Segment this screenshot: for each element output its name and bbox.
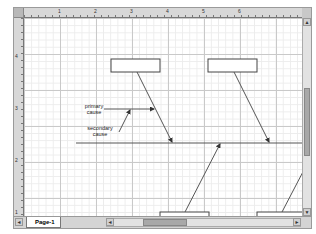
horizontal-ruler[interactable]: 1 2 3 4 5 6 bbox=[24, 8, 302, 18]
primary-cause-label[interactable]: primary cause bbox=[81, 103, 107, 115]
ruler-label: 3 bbox=[15, 106, 18, 111]
secondary-cause-arrow bbox=[119, 110, 130, 132]
primary-bone-top-right bbox=[234, 72, 269, 142]
primary-bone-top-left bbox=[137, 72, 172, 142]
vertical-ruler[interactable]: 4 3 2 1 bbox=[14, 18, 24, 216]
vertical-scrollbar[interactable]: ▲ ▼ bbox=[302, 18, 311, 216]
secondary-cause-line2: cause bbox=[84, 131, 116, 137]
ruler-corner[interactable] bbox=[14, 8, 24, 18]
ruler-label: 5 bbox=[202, 9, 205, 14]
page-nav-first-button[interactable]: ◄ bbox=[15, 218, 23, 226]
horizontal-scroll-thumb[interactable] bbox=[143, 219, 187, 226]
ruler-label: 2 bbox=[15, 158, 18, 163]
ruler-label: 2 bbox=[94, 9, 97, 14]
page-tab-page-1[interactable]: Page-1 bbox=[26, 217, 61, 228]
scroll-down-button[interactable]: ▼ bbox=[303, 208, 311, 216]
ruler-label: 4 bbox=[166, 9, 169, 14]
scroll-left-button[interactable]: ◄ bbox=[106, 218, 114, 226]
primary-bone-bottom-left bbox=[185, 144, 220, 212]
primary-cause-line2: cause bbox=[81, 109, 107, 115]
fishbone-diagram bbox=[24, 18, 302, 216]
ruler-label: 4 bbox=[15, 54, 18, 59]
ruler-label: 6 bbox=[238, 9, 241, 14]
ruler-label: 1 bbox=[58, 9, 61, 14]
scroll-up-button[interactable]: ▲ bbox=[303, 18, 311, 26]
page-tab-bar: ◄ Page-1 ◄ ► bbox=[14, 216, 311, 228]
visio-drawing-window: 1 2 3 4 5 6 4 3 2 1 bbox=[13, 7, 312, 229]
ruler-label: 3 bbox=[130, 9, 133, 14]
category-box-top-right bbox=[208, 59, 257, 72]
category-box-top-left bbox=[111, 59, 160, 72]
ruler-label: 1 bbox=[15, 210, 18, 215]
horizontal-scrollbar[interactable]: ◄ ► bbox=[106, 218, 301, 227]
vertical-scroll-thumb[interactable] bbox=[304, 88, 310, 156]
primary-bone-bottom-right bbox=[282, 166, 302, 212]
scroll-right-button[interactable]: ► bbox=[293, 218, 301, 226]
secondary-cause-label[interactable]: secondary cause bbox=[84, 125, 116, 137]
drawing-canvas[interactable]: primary cause secondary cause bbox=[24, 18, 302, 216]
